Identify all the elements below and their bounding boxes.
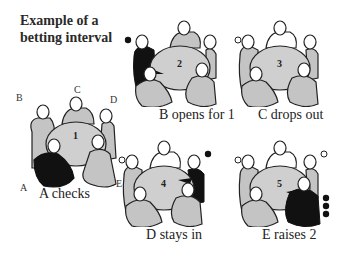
caption-text: stays in bbox=[156, 227, 202, 242]
caption-text: checks bbox=[48, 186, 90, 201]
table-number: 1 bbox=[73, 130, 78, 141]
chip-icon bbox=[119, 157, 125, 163]
caption-text: opens for 1 bbox=[168, 107, 235, 122]
chip-icon bbox=[321, 151, 327, 157]
caption-d-stays-in: D stays in bbox=[146, 227, 202, 243]
chip-icon bbox=[235, 157, 241, 163]
chip-icon bbox=[205, 151, 211, 157]
table-number: 3 bbox=[277, 58, 282, 69]
chip-icon bbox=[323, 195, 329, 201]
seat-label-c: C bbox=[74, 84, 81, 95]
table-number: 2 bbox=[177, 58, 182, 69]
poker-table-illustration bbox=[112, 12, 232, 107]
caption-b-opens: B opens for 1 bbox=[159, 107, 235, 123]
seat-label-b: B bbox=[16, 92, 23, 103]
caption-letter: E bbox=[262, 227, 271, 242]
caption-letter: C bbox=[258, 107, 267, 122]
chip-icon bbox=[323, 203, 329, 209]
chip-icon bbox=[125, 37, 131, 43]
title-line-2: betting interval bbox=[20, 29, 112, 46]
caption-text: drops out bbox=[267, 107, 323, 122]
caption-letter: A bbox=[39, 186, 48, 201]
chip-icon bbox=[323, 211, 329, 217]
title-line-1: Example of a bbox=[20, 12, 112, 29]
caption-e-raises: E raises 2 bbox=[262, 227, 316, 243]
caption-a-checks: A checks bbox=[39, 186, 90, 202]
player-c-figure bbox=[62, 97, 94, 124]
caption-letter: D bbox=[146, 227, 156, 242]
caption-c-drops-out: C drops out bbox=[258, 107, 323, 123]
caption-letter: B bbox=[159, 107, 168, 122]
table-number: 4 bbox=[161, 178, 166, 189]
caption-text: raises 2 bbox=[271, 227, 317, 242]
seat-label-a: A bbox=[20, 182, 27, 193]
poker-table-illustration bbox=[228, 132, 348, 227]
diagram-title: Example of a betting interval bbox=[20, 12, 112, 46]
poker-table-illustration bbox=[112, 132, 232, 227]
table-number: 5 bbox=[277, 178, 282, 189]
chip-icon bbox=[235, 37, 241, 43]
poker-table-illustration bbox=[228, 12, 348, 107]
